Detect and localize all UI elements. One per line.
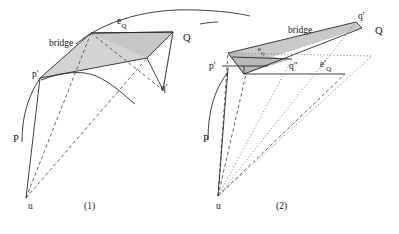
panel2-label-P: P — [203, 134, 209, 145]
panel2-label-Q: Q — [375, 26, 383, 37]
panel2-dot-u-mid — [218, 59, 292, 196]
panel2-label-e-q-sub: Q — [261, 51, 264, 56]
panel2-label-q-prime: q' — [358, 12, 364, 22]
panel2-label-q-double-prime: q'' — [289, 62, 297, 72]
panel1-label-u: u — [28, 202, 33, 212]
panel1-label-e-q-sub: Q — [121, 22, 126, 29]
figure-root: bridge eQ Q q' p' P u (1) bridge q' Q p'… — [0, 0, 399, 234]
panel2-label-p-prime: p' — [209, 62, 215, 72]
panel1-label-P: P — [13, 134, 19, 145]
panel2-label-e-q: eQ — [258, 46, 264, 55]
panel2-label-u: u — [216, 202, 221, 212]
panel2-dot-u-Q — [218, 56, 372, 196]
panel2-edge-u-pprime — [218, 68, 228, 196]
panel2-drawing — [0, 0, 399, 234]
panel2-inner-shade-light — [228, 53, 290, 74]
panel1-label-Q: Q — [183, 33, 191, 44]
panel1-label-p-prime: p' — [32, 70, 38, 80]
panel2-dash-u-eqprime-end — [218, 74, 345, 196]
panel2-curve-stub — [200, 22, 218, 24]
panel1-label-q-prime: q' — [161, 84, 167, 94]
panel2-label-bridge: bridge — [288, 26, 312, 36]
panel2-caption: (2) — [276, 202, 287, 212]
panel2-label-e-q-prime-sub: Q — [326, 65, 331, 72]
panel1-label-bridge: bridge — [49, 39, 73, 49]
panel1-label-e-q: eQ — [117, 17, 126, 29]
panel1-caption: (1) — [84, 202, 95, 212]
panel2-label-e-q-prime: e'Q — [320, 60, 331, 72]
